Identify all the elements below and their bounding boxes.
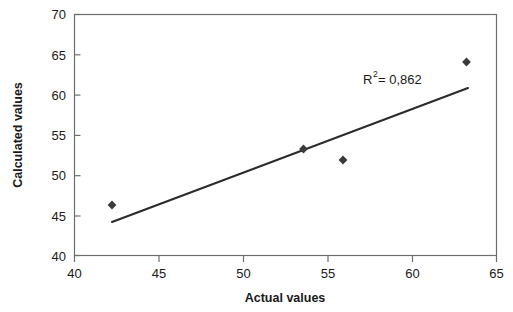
y-tick-label-40: 40	[52, 249, 66, 264]
x-axis-ticks	[75, 256, 497, 263]
scatter-chart: 70 65 60 55 50 45 40 40 45 50 55 60 65 A…	[0, 0, 513, 312]
y-tick-label-50: 50	[52, 168, 66, 183]
r-squared-value: = 0,862	[378, 72, 422, 87]
y-tick-label-45: 45	[52, 209, 66, 224]
y-tick-label-55: 55	[52, 128, 66, 143]
x-tick-label-50: 50	[236, 266, 250, 281]
x-tick-label-65: 65	[489, 266, 503, 281]
x-axis-title: Actual values	[245, 291, 326, 305]
x-tick-label-45: 45	[152, 266, 166, 281]
y-tick-label-70: 70	[52, 7, 66, 22]
r-squared-annotation: R 2 = 0,862	[363, 69, 422, 87]
y-tick-label-65: 65	[52, 48, 66, 63]
x-tick-label-40: 40	[67, 266, 81, 281]
plot-frame	[75, 15, 497, 256]
x-tick-label-55: 55	[321, 266, 335, 281]
r-squared-prefix: R	[363, 72, 372, 87]
y-tick-label-60: 60	[52, 88, 66, 103]
x-tick-label-60: 60	[405, 266, 419, 281]
chart-canvas: 70 65 60 55 50 45 40 40 45 50 55 60 65 A…	[0, 0, 513, 312]
y-axis-title: Calculated values	[11, 82, 25, 188]
